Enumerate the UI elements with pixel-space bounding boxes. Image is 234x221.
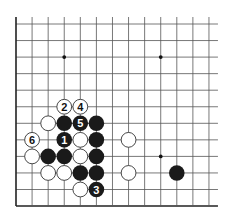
black-stone — [89, 165, 105, 181]
black-stone — [169, 165, 185, 181]
white-stone — [57, 166, 72, 181]
black-stone — [89, 132, 105, 148]
white-stone — [73, 149, 88, 164]
star-point — [159, 55, 163, 59]
white-stone — [41, 166, 56, 181]
move-number: 6 — [29, 134, 35, 146]
black-stone-move-1: 1 — [56, 132, 72, 148]
white-stone — [121, 132, 136, 147]
white-stone-move-2: 2 — [57, 99, 72, 114]
move-number: 2 — [61, 101, 67, 113]
go-board: 245613 — [0, 0, 234, 221]
white-stone — [41, 116, 56, 131]
black-stone — [40, 149, 56, 165]
white-stone-move-6: 6 — [25, 132, 40, 147]
black-stone-move-5: 5 — [73, 116, 89, 132]
black-stone — [73, 165, 89, 181]
move-number: 4 — [77, 101, 84, 113]
move-number: 3 — [93, 184, 99, 196]
black-stone — [89, 149, 105, 165]
black-stone — [56, 149, 72, 165]
black-stone-move-3: 3 — [89, 182, 105, 198]
star-point — [62, 55, 66, 59]
white-stone — [73, 132, 88, 147]
move-number: 1 — [61, 134, 67, 146]
white-stone — [121, 166, 136, 181]
star-point — [159, 155, 163, 159]
move-number: 5 — [77, 117, 83, 129]
white-stone — [25, 149, 40, 164]
black-stone — [89, 116, 105, 132]
black-stone — [56, 116, 72, 132]
white-stone-move-4: 4 — [73, 99, 88, 114]
white-stone — [73, 182, 88, 197]
